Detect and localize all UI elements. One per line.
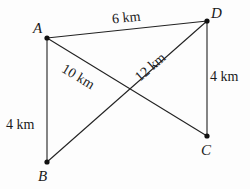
point-label-a: A (33, 20, 42, 37)
point-label-b: B (38, 168, 47, 185)
edge-b-d (47, 21, 207, 162)
point-b-dot (44, 159, 49, 164)
point-label-d: D (211, 5, 222, 22)
point-c-dot (204, 133, 209, 138)
edge-label-a-b: 4 km (6, 117, 34, 133)
point-label-c: C (201, 142, 211, 159)
edge-label-a-d: 6 km (111, 9, 141, 28)
point-a-dot (44, 35, 49, 40)
route-diagram: A D C B 6 km 10 km 12 km 4 km 4 km (0, 0, 250, 189)
point-d-dot (204, 18, 209, 23)
edge-a-c (47, 38, 207, 136)
edge-label-d-c: 4 km (210, 69, 238, 85)
